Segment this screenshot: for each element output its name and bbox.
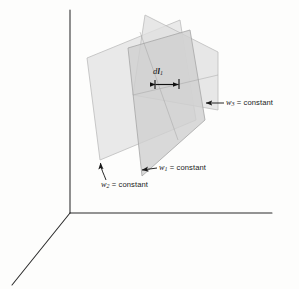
label-w1-subscript: 1 [165, 166, 168, 172]
figure-canvas: w3 = constant w1 = constant w2 = constan… [0, 0, 299, 289]
label-w1-value: constant [177, 163, 207, 172]
label-w2-constant: w2 = constant [101, 181, 148, 189]
label-w2-subscript: 2 [107, 183, 110, 189]
label-w3-equals: = [237, 98, 242, 107]
label-w1-constant: w1 = constant [159, 164, 206, 172]
label-dl1: dl1 [153, 67, 163, 76]
coordinate-surfaces-diagram [0, 0, 299, 289]
w2-leader-arrow [101, 163, 107, 180]
label-w3-constant: w3 = constant [226, 99, 273, 107]
label-w3-value: constant [244, 98, 274, 107]
diagonal-axis [12, 213, 70, 285]
label-w2-value: constant [119, 180, 149, 189]
label-w3-subscript: 3 [232, 101, 235, 107]
surface-w1-plane [128, 30, 205, 176]
label-w2-equals: = [112, 180, 117, 189]
label-w1-equals: = [170, 163, 175, 172]
label-dl1-subscript: 1 [160, 70, 163, 76]
